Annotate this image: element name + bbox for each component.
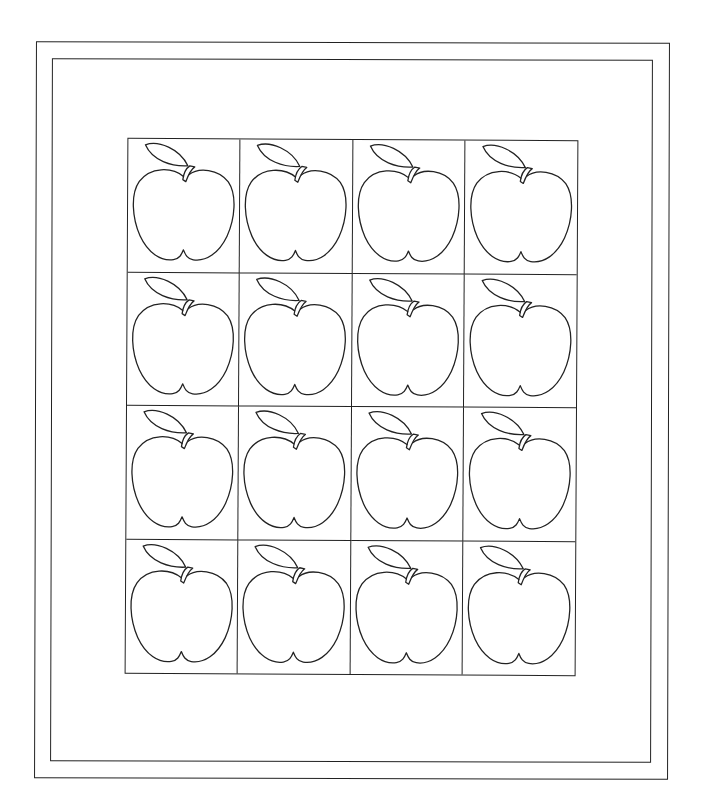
grid-cell [126,539,239,673]
leaf-icon [256,411,299,433]
stem-icon [405,568,417,584]
apple-icon [238,540,350,674]
stem-icon [518,568,530,584]
grid-cell [239,406,352,540]
apple-icon [462,541,575,675]
apple-icon [352,274,464,407]
grid-cell [240,139,353,273]
apple-icon [351,407,463,540]
stem-icon [519,301,531,317]
leaf-icon [480,546,523,569]
stem-icon [520,168,532,184]
leaf-icon [257,278,300,300]
stem-icon [183,166,195,182]
apple-icon [126,406,238,539]
stem-icon [182,299,194,315]
leaf-icon [370,145,413,167]
apple-icon [240,139,352,272]
grid-cell [351,407,464,541]
apple-icon [126,539,238,673]
leaf-icon [145,277,188,299]
apple-grid [125,138,579,676]
stem-icon [293,567,305,583]
grid-cell [350,540,463,674]
grid-cell [127,272,240,406]
leaf-icon [145,143,188,165]
apple-icon [464,141,577,274]
stem-icon [181,567,193,583]
grid-cell [352,274,465,408]
apple-icon [464,274,577,407]
grid-cell [352,140,465,274]
stem-icon [294,300,306,316]
grid-cell [463,408,576,542]
leaf-icon [481,412,524,434]
stem-icon [295,166,307,182]
apple-icon [239,273,351,406]
leaf-icon [255,545,298,568]
apple-icon [463,408,576,541]
leaf-icon [483,145,526,167]
grid-cell [464,274,577,408]
stem-icon [407,300,419,316]
grid-cell [464,141,577,275]
leaf-icon [369,278,412,300]
apple-icon [350,540,462,674]
apple-icon [128,139,240,272]
stem-icon [181,433,193,449]
leaf-icon [144,410,187,432]
stem-icon [406,434,418,450]
grid-cell [128,139,241,273]
stem-icon [519,435,531,451]
stem-icon [407,167,419,183]
grid-cell [126,406,239,540]
stem-icon [294,433,306,449]
grid-cell [238,540,351,674]
leaf-icon [258,144,301,166]
grid-cell [239,273,352,407]
apple-icon [127,272,239,405]
leaf-icon [368,545,411,568]
leaf-icon [143,544,186,567]
leaf-icon [368,412,411,434]
apple-icon [239,406,351,539]
leaf-icon [482,279,525,301]
apple-icon [352,140,464,273]
grid-cell [462,541,575,675]
